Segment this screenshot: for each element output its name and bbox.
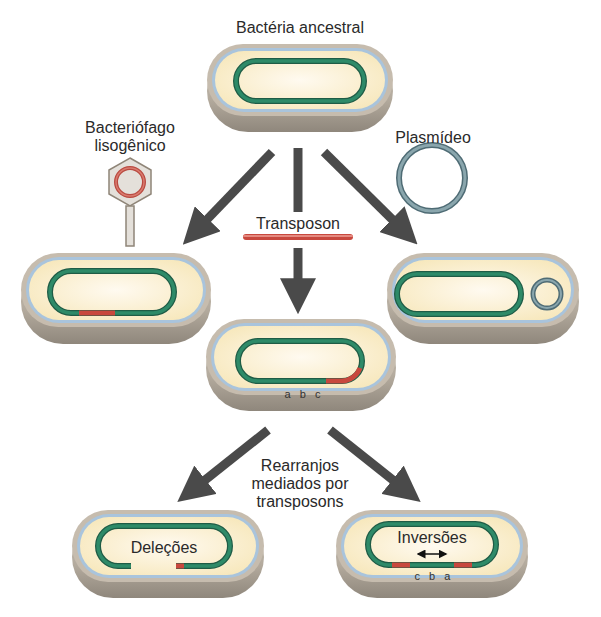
lysogen-bacterium — [21, 253, 211, 344]
gene-order-abc: a b c — [279, 385, 329, 404]
title-ancestral: Bactéria ancestral — [230, 18, 370, 37]
label-transposon: Transposon — [250, 214, 346, 233]
transposon-segment — [243, 234, 353, 240]
gene-order-cba: c b a — [411, 567, 457, 586]
label-rearrangement-1: Rearranjos — [250, 456, 350, 475]
plasmid-carrier-bacterium — [387, 253, 579, 344]
bacteriophage-icon — [109, 158, 151, 246]
label-inversions: Inversões — [392, 528, 472, 547]
label-deletions: Deleções — [124, 538, 204, 557]
label-plasmid: Plasmídeo — [393, 128, 473, 147]
label-rearrangement-3: transposons — [250, 492, 350, 511]
label-bacteriophage-1: Bacteriófago — [80, 118, 180, 137]
label-bacteriophage-2: lisogênico — [80, 136, 180, 155]
label-rearrangement-2: mediados por — [250, 474, 350, 493]
ancestral-bacterium — [207, 44, 393, 132]
diagram-canvas — [0, 0, 601, 617]
plasmid-icon — [399, 145, 465, 211]
